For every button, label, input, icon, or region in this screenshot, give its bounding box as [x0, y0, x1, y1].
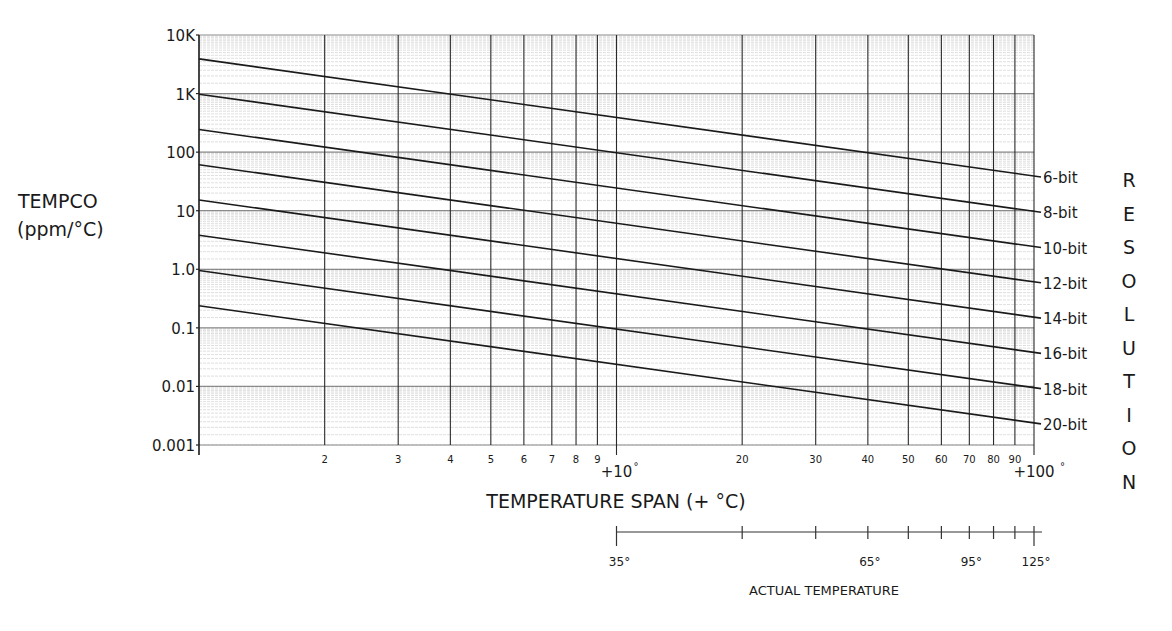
x-tick-label: 50 [902, 454, 915, 465]
x-tick-label: 6 [521, 454, 527, 465]
actual-temp-label: 65° [859, 555, 880, 569]
legend-title-letter: R [1122, 169, 1135, 191]
svg-text:°: ° [634, 461, 639, 472]
actual-temp-label: 95° [961, 555, 982, 569]
actual-temperature-axis: 35°65°95°125° [609, 526, 1051, 569]
x-tick-label: 5 [488, 454, 494, 465]
y-tick-label: 0.01 [162, 378, 195, 396]
x-tick-label: 20 [736, 454, 749, 465]
x-tick-label: 2 [321, 454, 327, 465]
legend-title-letter: L [1124, 303, 1135, 325]
y-axis-label-line1: TEMPCO [17, 190, 98, 212]
series-line-20-bit [199, 306, 1041, 424]
x-tick-label: 60 [935, 454, 948, 465]
x-tick-label: 7 [549, 454, 555, 465]
y-tick-label: 1K [176, 86, 197, 104]
legend-title-letter: N [1122, 471, 1136, 493]
x-tick-label: +100 [1013, 463, 1054, 481]
x-tick-label: 40 [861, 454, 874, 465]
x-tick-label: 70 [963, 454, 976, 465]
x-axis-label: TEMPERATURE SPAN (+ °C) [485, 490, 745, 512]
legend-label-20-bit: 20-bit [1043, 416, 1087, 434]
series-line-10-bit [199, 129, 1041, 247]
x-tick-label: 8 [573, 454, 579, 465]
legend-title-letter: T [1122, 370, 1135, 392]
legend-label-16-bit: 16-bit [1043, 345, 1087, 363]
x-tick-label: 4 [447, 454, 453, 465]
legend-title-letter: E [1123, 203, 1135, 225]
x-tick-label: 3 [395, 454, 401, 465]
secondary-axis-label: ACTUAL TEMPERATURE [749, 583, 899, 598]
x-tick-label: 30 [809, 454, 822, 465]
y-tick-label: 1.0 [171, 261, 195, 279]
series-line-16-bit [199, 235, 1041, 353]
legend-label-10-bit: 10-bit [1043, 240, 1087, 258]
legend-title-letter: O [1122, 270, 1137, 292]
legend-label-18-bit: 18-bit [1043, 381, 1087, 399]
legend-label-12-bit: 12-bit [1043, 275, 1087, 293]
x-tick-label: 9 [594, 454, 600, 465]
y-tick-label: 0.001 [152, 437, 195, 455]
x-axis-ticks: 23456789+10°2030405060708090+100° [321, 454, 1065, 481]
actual-temp-label: 125° [1022, 555, 1051, 569]
y-tick-label: 10K [166, 27, 196, 45]
y-axis-label-line2: (ppm/°C) [17, 218, 104, 240]
legend-title-letter: S [1123, 236, 1135, 258]
legend-title-letter: O [1122, 437, 1137, 459]
legend-label-8-bit: 8-bit [1043, 204, 1078, 222]
y-tick-label: 0.1 [171, 320, 195, 338]
legend-title-letter: I [1126, 404, 1132, 426]
legend-label-14-bit: 14-bit [1043, 310, 1087, 328]
legend-title-letter: U [1122, 337, 1136, 359]
svg-text:°: ° [1060, 461, 1065, 472]
x-tick-label: 80 [987, 454, 1000, 465]
tempco-chart: 10K1K100101.00.10.010.001 23456789+10°20… [0, 0, 1172, 631]
series-line-18-bit [199, 270, 1041, 388]
x-tick-label: +10 [601, 463, 633, 481]
legend-label-6-bit: 6-bit [1043, 169, 1078, 187]
actual-temp-label: 35° [609, 555, 630, 569]
y-tick-label: 100 [166, 144, 195, 162]
resolution-legend: 6-bit8-bit10-bit12-bit14-bit16-bit18-bit… [1043, 169, 1136, 493]
y-axis-ticks: 10K1K100101.00.10.010.001 [152, 27, 199, 455]
y-tick-label: 10 [176, 203, 195, 221]
major-gridlines [199, 35, 1034, 455]
